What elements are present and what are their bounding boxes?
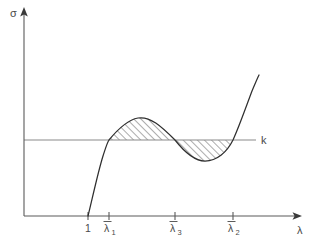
tick-label-lambda2-glyph: λ [228, 222, 234, 234]
tick-label-lambda2: λ 2 [228, 222, 240, 238]
figure-canvas: σ λ k 1 λ 1 λ 3 λ 2 [0, 0, 314, 239]
tick-label-lambda2-subscript: 2 [236, 228, 240, 237]
tick-label-lambda3-subscript: 3 [178, 228, 182, 237]
tick-label-1: 1 [85, 222, 91, 234]
hatched-region-lower-lobe [168, 136, 240, 168]
figure-sigma-lambda-curve: σ λ k 1 λ 1 λ 3 λ 2 [0, 0, 314, 239]
tick-label-lambda1: λ 1 [104, 222, 116, 238]
y-axis-label: σ [10, 7, 17, 19]
k-label: k [261, 134, 267, 146]
tick-label-lambda3: λ 3 [170, 222, 182, 238]
tick-label-lambda3-glyph: λ [170, 222, 176, 234]
tick-label-lambda1-glyph: λ [104, 222, 110, 234]
x-axis-label: λ [297, 224, 303, 236]
hatched-region-upper-lobe [100, 108, 190, 150]
sigma-curve [88, 75, 259, 216]
tick-label-lambda1-subscript: 1 [112, 228, 116, 237]
